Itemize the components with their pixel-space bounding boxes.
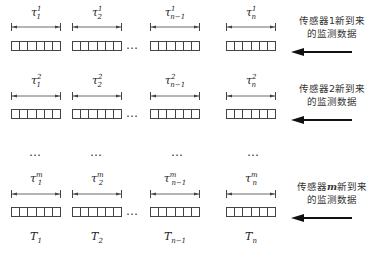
dimension-arrow-icon: [11, 92, 61, 100]
tau-superscript: m: [36, 171, 43, 179]
data-cell: [252, 110, 260, 118]
data-cell: [81, 42, 89, 50]
time-window-label: T1: [11, 230, 61, 245]
data-cell: [192, 42, 199, 50]
tau-label: τ2n: [226, 74, 276, 89]
label-line-2: 的监测数据: [292, 27, 372, 40]
dimension-arrow-icon: [11, 190, 61, 198]
tau-label: τ21: [11, 74, 61, 89]
data-cell: [45, 208, 53, 216]
data-cell: [98, 42, 106, 50]
tau-superscript: 2: [98, 73, 102, 81]
data-cell: [45, 110, 53, 118]
tau-subscript: n−1: [170, 13, 185, 21]
data-cell: [114, 208, 121, 216]
data-cells: [226, 41, 276, 51]
data-cell: [20, 208, 28, 216]
data-cell: [235, 110, 243, 118]
label-line-2: 的监测数据: [292, 95, 372, 108]
label-line-1: 传感器m新到来: [292, 180, 372, 193]
data-cell: [73, 208, 81, 216]
tau-superscript: 2: [171, 73, 175, 81]
data-cell: [235, 208, 243, 216]
tau-label: τ1n: [226, 6, 276, 21]
tau-symbol: τmn: [245, 172, 257, 187]
data-cell: [167, 208, 175, 216]
data-cell: [227, 42, 235, 50]
horizontal-ellipsis: …: [126, 107, 139, 119]
time-window-label: Tn: [226, 230, 276, 245]
tau-symbol: τ2n: [246, 74, 256, 89]
tau-label: τmn: [226, 172, 276, 187]
time-window-label: T2: [72, 230, 122, 245]
data-cell: [252, 208, 260, 216]
tau-superscript: 1: [98, 5, 102, 13]
data-cell: [12, 208, 20, 216]
label-suffix: 新到来: [337, 181, 367, 192]
data-cell: [167, 42, 175, 50]
data-cell: [227, 110, 235, 118]
sensor-data-label: 传感器1新到来的监测数据: [292, 14, 372, 40]
horizontal-ellipsis: …: [126, 205, 139, 217]
data-cells: [11, 41, 61, 51]
data-cell: [151, 208, 159, 216]
data-cell: [28, 110, 36, 118]
tau-label: τ11: [11, 6, 61, 21]
data-cell: [260, 208, 268, 216]
time-window-label: Tn−1: [150, 230, 200, 245]
tau-subscript: n−1: [171, 179, 186, 187]
tau-superscript: 1: [252, 5, 256, 13]
data-cell: [243, 208, 251, 216]
data-cell: [37, 110, 45, 118]
data-cell: [176, 42, 184, 50]
tau-symbol: τ1n: [246, 6, 256, 21]
tau-label: τ22: [72, 74, 122, 89]
data-cell: [81, 110, 89, 118]
tau-symbol: τ2n−1: [165, 74, 185, 89]
data-cell: [114, 42, 121, 50]
tau-subscript: n−1: [170, 81, 185, 89]
data-cell: [243, 42, 251, 50]
tau-symbol: τ22: [92, 74, 102, 89]
vertical-ellipsis: …: [171, 146, 184, 158]
dimension-arrow-icon: [72, 23, 122, 31]
tau-label: τ12: [72, 6, 122, 21]
data-cells: [11, 109, 61, 119]
data-cell: [151, 42, 159, 50]
data-cell: [167, 110, 175, 118]
incoming-arrow-icon: [291, 110, 353, 129]
data-cell: [98, 110, 106, 118]
data-cells: [72, 41, 122, 51]
tau-subscript: n: [252, 81, 257, 89]
tau-superscript: 1: [171, 5, 175, 13]
data-cell: [106, 208, 114, 216]
data-cell: [106, 110, 114, 118]
sensor-data-label: 传感器2新到来的监测数据: [292, 82, 372, 108]
data-cell: [20, 110, 28, 118]
dimension-arrow-icon: [72, 190, 122, 198]
data-cell: [176, 110, 184, 118]
data-cell: [28, 208, 36, 216]
data-cell: [159, 110, 167, 118]
data-cells: [150, 207, 200, 217]
data-cell: [268, 208, 275, 216]
time-subscript: n: [252, 237, 257, 245]
data-cell: [151, 110, 159, 118]
tau-superscript: m: [170, 171, 177, 179]
tau-label: τ2n−1: [150, 74, 200, 89]
data-cell: [45, 42, 53, 50]
data-cell: [53, 110, 60, 118]
data-cell: [73, 110, 81, 118]
tau-superscript: 1: [37, 5, 41, 13]
tau-subscript: n: [253, 179, 258, 187]
vertical-ellipsis: …: [29, 146, 42, 158]
data-cell: [37, 42, 45, 50]
data-cell: [260, 42, 268, 50]
tau-subscript: 2: [98, 13, 102, 21]
data-cell: [235, 42, 243, 50]
label-line-1: 传感器1新到来: [292, 14, 372, 27]
data-cell: [89, 110, 97, 118]
dimension-arrow-icon: [226, 23, 276, 31]
dimension-arrow-icon: [150, 190, 200, 198]
tau-symbol: τ1n−1: [165, 6, 185, 21]
